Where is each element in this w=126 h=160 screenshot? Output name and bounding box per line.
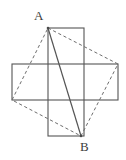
figure-canvas: [0, 0, 126, 160]
vertex-label-a: A: [34, 9, 43, 22]
vertex-point-b: [80, 135, 83, 138]
vertex-label-b: B: [80, 140, 89, 153]
vertex-point-a: [47, 27, 50, 30]
segment-ab: [48, 28, 81, 136]
geometry-figure: A B: [0, 0, 126, 160]
